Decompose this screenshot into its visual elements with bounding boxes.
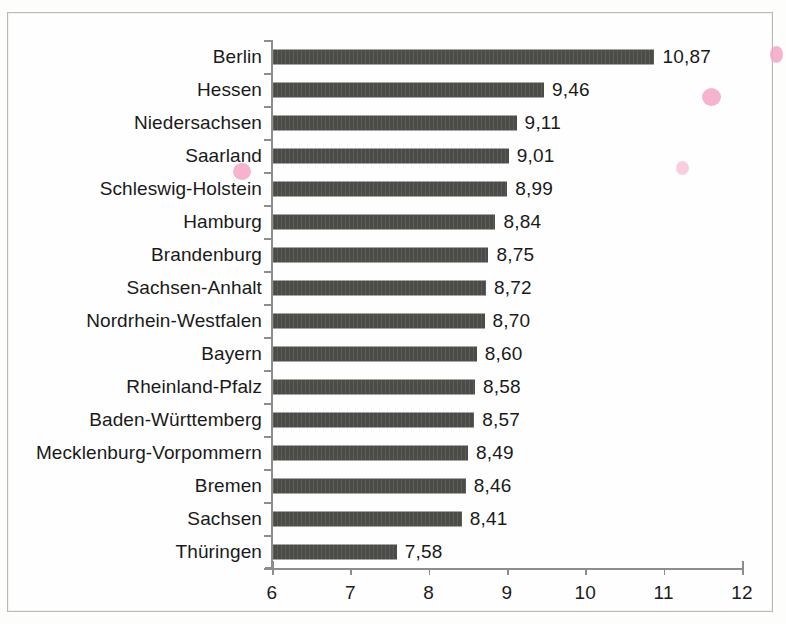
bar bbox=[273, 412, 474, 427]
bar-row: Baden-Württemberg8,57 bbox=[0, 403, 786, 436]
category-label: Hamburg bbox=[183, 211, 262, 233]
category-label: Nordrhein-Westfalen bbox=[86, 310, 262, 332]
bar bbox=[273, 49, 654, 64]
category-label: Sachsen bbox=[187, 508, 262, 530]
bar bbox=[273, 478, 466, 493]
bar bbox=[273, 115, 517, 130]
bar-row: Hamburg8,84 bbox=[0, 205, 786, 238]
bar bbox=[273, 544, 397, 559]
bar-row: Brandenburg8,75 bbox=[0, 238, 786, 271]
category-tick bbox=[264, 568, 272, 570]
bar bbox=[273, 280, 486, 295]
bar-row: Rheinland-Pfalz8,58 bbox=[0, 370, 786, 403]
bar bbox=[273, 82, 544, 97]
bar-value-label: 8,41 bbox=[470, 508, 508, 530]
bar bbox=[273, 511, 462, 526]
category-label: Niedersachsen bbox=[134, 112, 262, 134]
bar bbox=[273, 445, 468, 460]
category-label: Bremen bbox=[195, 475, 262, 497]
bar-value-label: 8,57 bbox=[482, 409, 520, 431]
bar bbox=[273, 181, 507, 196]
bar-row: Thüringen7,58 bbox=[0, 535, 786, 568]
bar-value-label: 9,01 bbox=[517, 145, 555, 167]
bar-row: Hessen9,46 bbox=[0, 73, 786, 106]
value-tick bbox=[664, 568, 666, 575]
bar-value-label: 10,87 bbox=[662, 46, 711, 68]
value-tick bbox=[350, 568, 352, 575]
bar-value-label: 8,75 bbox=[496, 244, 534, 266]
bar-value-label: 9,46 bbox=[552, 79, 590, 101]
category-label: Sachsen-Anhalt bbox=[126, 277, 262, 299]
category-label: Thüringen bbox=[176, 541, 262, 563]
value-tick-label: 9 bbox=[487, 582, 527, 604]
category-label: Hessen bbox=[197, 79, 262, 101]
value-tick-label: 11 bbox=[644, 582, 684, 604]
bar bbox=[273, 313, 485, 328]
value-tick-label: 10 bbox=[565, 582, 605, 604]
value-tick bbox=[507, 568, 509, 575]
bar bbox=[273, 379, 475, 394]
value-tick bbox=[429, 568, 431, 575]
bar bbox=[273, 247, 488, 262]
bar-value-label: 8,49 bbox=[476, 442, 514, 464]
bar-value-label: 8,70 bbox=[493, 310, 531, 332]
bar-value-label: 8,58 bbox=[483, 376, 521, 398]
bar-row: Niedersachsen9,11 bbox=[0, 106, 786, 139]
bar bbox=[273, 346, 477, 361]
bar-row: Bremen8,46 bbox=[0, 469, 786, 502]
bar-value-label: 8,60 bbox=[485, 343, 523, 365]
value-tick-label: 8 bbox=[409, 582, 449, 604]
bar-value-label: 8,84 bbox=[503, 211, 541, 233]
value-tick bbox=[585, 568, 587, 575]
category-label: Baden-Württemberg bbox=[89, 409, 262, 431]
category-label: Schleswig-Holstein bbox=[100, 178, 262, 200]
bar-row: Sachsen-Anhalt8,72 bbox=[0, 271, 786, 304]
value-tick-label: 12 bbox=[722, 582, 762, 604]
value-tick-label: 6 bbox=[252, 582, 292, 604]
category-label: Berlin bbox=[213, 46, 262, 68]
category-label: Rheinland-Pfalz bbox=[126, 376, 262, 398]
category-label: Mecklenburg-Vorpommern bbox=[36, 442, 262, 464]
bar bbox=[273, 148, 509, 163]
bar-value-label: 9,11 bbox=[525, 112, 561, 134]
bar-row: Berlin10,87 bbox=[0, 40, 786, 73]
value-tick-label: 7 bbox=[330, 582, 370, 604]
bar-row: Mecklenburg-Vorpommern8,49 bbox=[0, 436, 786, 469]
bar-chart: 6789101112 Berlin10,87Hessen9,46Niedersa… bbox=[0, 0, 786, 624]
bar-value-label: 7,58 bbox=[405, 541, 443, 563]
bar-row: Sachsen8,41 bbox=[0, 502, 786, 535]
bar-value-label: 8,72 bbox=[494, 277, 532, 299]
category-label: Brandenburg bbox=[151, 244, 262, 266]
bar bbox=[273, 214, 495, 229]
bar-row: Saarland9,01 bbox=[0, 139, 786, 172]
value-tick bbox=[272, 568, 274, 575]
category-label: Bayern bbox=[201, 343, 262, 365]
bar-row: Nordrhein-Westfalen8,70 bbox=[0, 304, 786, 337]
bar-value-label: 8,46 bbox=[474, 475, 512, 497]
bar-value-label: 8,99 bbox=[515, 178, 553, 200]
bar-row: Schleswig-Holstein8,99 bbox=[0, 172, 786, 205]
bar-row: Bayern8,60 bbox=[0, 337, 786, 370]
value-tick bbox=[742, 568, 744, 575]
screenshot-page: 6789101112 Berlin10,87Hessen9,46Niedersa… bbox=[0, 0, 786, 624]
category-label: Saarland bbox=[185, 145, 262, 167]
